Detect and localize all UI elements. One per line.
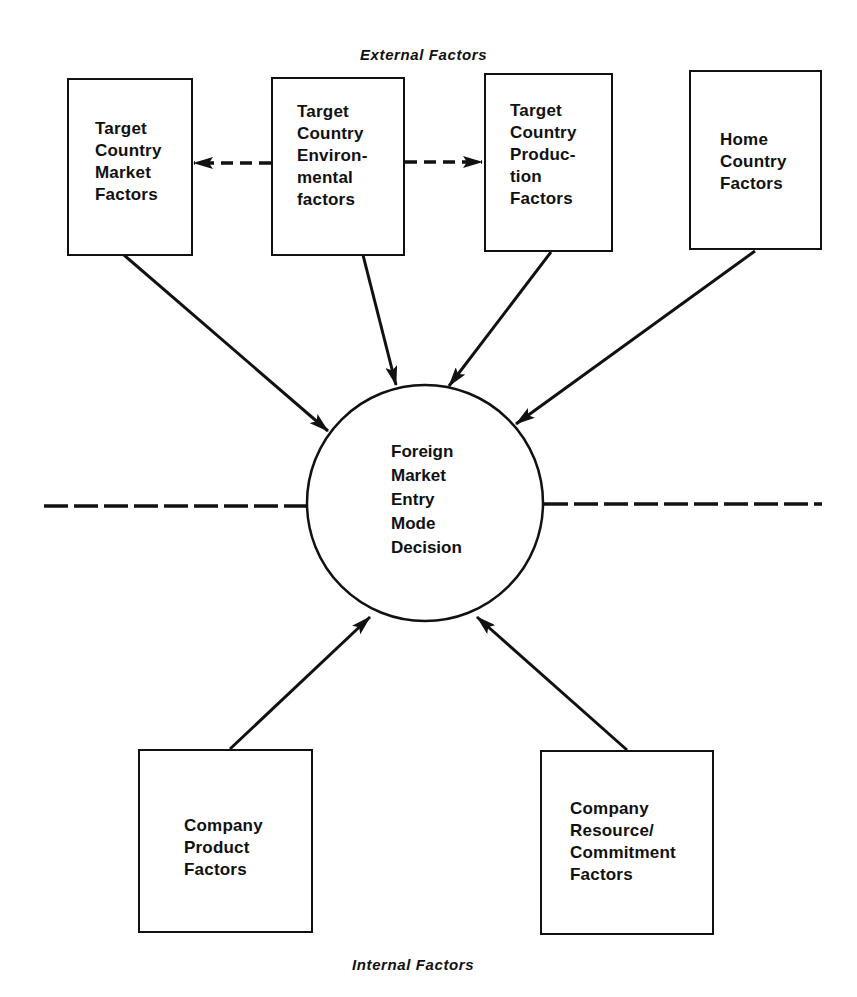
target-production-factors-label: Target Country Produc- tion Factors (510, 100, 577, 210)
arrow-product-to-center (230, 617, 370, 749)
internal-factors-label: Internal Factors (352, 956, 474, 973)
external-factors-label: External Factors (360, 46, 487, 63)
arrow-market-to-center (124, 255, 328, 431)
arrow-production-to-center (449, 252, 551, 386)
company-resource-factors-label: Company Resource/ Commitment Factors (570, 798, 676, 886)
home-country-factors-label: Home Country Factors (720, 129, 787, 195)
entry-mode-diagram: External Factors Internal Factors Target… (0, 0, 857, 997)
arrow-resource-to-center (477, 617, 627, 750)
target-environmental-factors-label: Target Country Environ- mental factors (297, 101, 368, 211)
company-resource-factors-box: Company Resource/ Commitment Factors (540, 750, 714, 935)
target-environmental-factors-box: Target Country Environ- mental factors (271, 77, 405, 256)
decision-label: Foreign Market Entry Mode Decision (391, 440, 462, 560)
target-market-factors-label: Target Country Market Factors (95, 118, 162, 206)
company-product-factors-box: Company Product Factors (138, 749, 313, 933)
arrow-environmental-to-center (363, 255, 396, 385)
company-product-factors-label: Company Product Factors (184, 815, 263, 881)
home-country-factors-box: Home Country Factors (689, 70, 822, 250)
target-production-factors-box: Target Country Produc- tion Factors (484, 73, 613, 252)
arrow-home-to-center (516, 251, 755, 424)
target-market-factors-box: Target Country Market Factors (67, 78, 193, 256)
